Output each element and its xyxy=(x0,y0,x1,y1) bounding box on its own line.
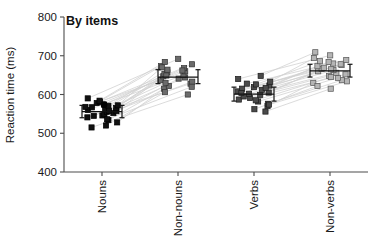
data-point xyxy=(185,92,190,97)
data-point xyxy=(189,84,194,89)
data-point xyxy=(163,80,168,85)
x-tick-label-nouns: Nouns xyxy=(96,180,108,213)
data-point xyxy=(236,76,241,81)
data-point xyxy=(89,125,94,130)
y-axis-tick-labels: 400500600700800 xyxy=(38,11,57,178)
data-point xyxy=(85,115,90,120)
data-point xyxy=(91,113,96,118)
x-tick-label-non-nouns: Non-nouns xyxy=(172,180,184,237)
data-point xyxy=(89,105,94,110)
data-point xyxy=(106,108,111,113)
data-point xyxy=(85,96,90,101)
data-point xyxy=(328,53,333,58)
data-point xyxy=(253,82,258,87)
data-point xyxy=(180,68,185,73)
y-axis-ticks xyxy=(60,17,64,172)
x-axis-ticks xyxy=(102,172,330,176)
y-axis-title: Reaction time (ms) xyxy=(4,47,16,144)
paired-connector-lines xyxy=(85,52,346,127)
data-point xyxy=(263,85,268,90)
data-point xyxy=(115,120,120,125)
data-point xyxy=(189,62,194,67)
chart-figure: 400500600700800 Reaction time (ms) Nouns… xyxy=(0,0,380,251)
y-tick-label-600: 600 xyxy=(38,89,57,101)
data-point xyxy=(162,90,167,95)
data-point xyxy=(244,81,249,86)
x-tick-label-verbs: Verbs xyxy=(248,180,260,210)
data-point xyxy=(268,79,273,84)
data-point xyxy=(258,73,263,78)
data-point xyxy=(328,74,333,79)
data-point xyxy=(344,57,349,62)
data-point xyxy=(162,59,167,64)
data-point xyxy=(263,109,268,114)
data-point xyxy=(317,59,322,64)
data-point xyxy=(328,86,333,91)
data-point xyxy=(344,79,349,84)
mean-marker xyxy=(101,101,108,108)
data-point xyxy=(311,55,316,60)
x-axis-tick-labels: NounsNon-nounsVerbsNon-verbs xyxy=(96,180,336,237)
data-point xyxy=(252,107,257,112)
y-tick-label-800: 800 xyxy=(38,11,57,23)
data-point xyxy=(338,62,343,67)
data-point xyxy=(321,65,326,70)
y-axis: 400500600700800 Reaction time (ms) xyxy=(4,11,64,178)
data-point xyxy=(313,50,318,55)
data-point xyxy=(335,75,340,80)
y-tick-label-500: 500 xyxy=(38,127,57,139)
data-point xyxy=(253,98,258,103)
data-point xyxy=(103,123,108,128)
panel-title: By items xyxy=(66,14,118,28)
data-point xyxy=(165,67,170,72)
scatter-series-nouns xyxy=(83,96,121,130)
data-point xyxy=(236,97,241,102)
data-point xyxy=(239,90,244,95)
data-point xyxy=(343,72,348,77)
data-point xyxy=(326,59,331,64)
data-point xyxy=(176,56,181,61)
data-point xyxy=(105,117,110,122)
reaction-time-scatter-plot: 400500600700800 Reaction time (ms) Nouns… xyxy=(0,0,380,251)
data-point xyxy=(258,92,263,97)
y-tick-label-700: 700 xyxy=(38,50,57,62)
data-point xyxy=(315,64,320,69)
x-axis: NounsNon-nounsVerbsNon-verbs xyxy=(64,172,368,236)
data-point xyxy=(190,79,195,84)
data-point xyxy=(266,102,271,107)
x-tick-label-non-verbs: Non-verbs xyxy=(324,180,336,233)
y-tick-label-400: 400 xyxy=(38,166,57,178)
data-point xyxy=(315,83,320,88)
